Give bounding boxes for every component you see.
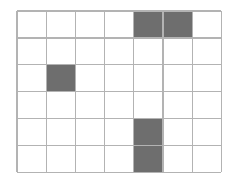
grid-figure [0,0,238,183]
shaded-cell-r5c5 [134,119,163,146]
shaded-cell-r1c5 [134,11,163,38]
shaded-cell-r6c5 [134,146,163,173]
grid-canvas [0,0,238,183]
shaded-cell-r3c2 [46,65,75,92]
shaded-cell-r1c6 [163,11,192,38]
